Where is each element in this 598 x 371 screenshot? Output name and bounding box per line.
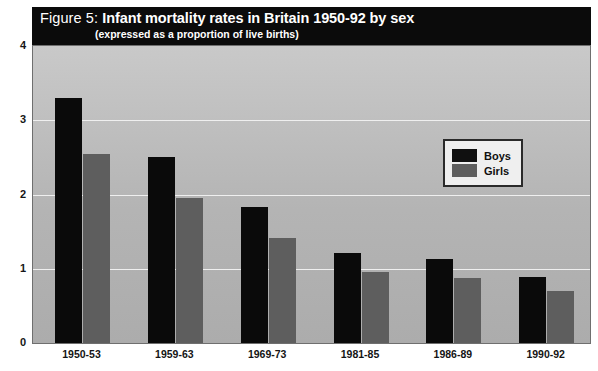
legend-item: Girls (452, 164, 511, 177)
figure-title-prefix: Figure 5: (40, 10, 102, 26)
y-axis-tick-label: 1 (20, 262, 26, 274)
legend-swatch-boys (452, 149, 477, 162)
legend-label-boys: Boys (484, 150, 511, 162)
bars-layer (33, 46, 590, 343)
bar-group (148, 46, 203, 343)
x-axis-tick-label: 1986-89 (434, 348, 473, 360)
bar-boys-1981-85 (334, 253, 361, 343)
bar-girls-1969-73 (269, 238, 296, 343)
bar-group (55, 46, 110, 343)
x-axis: 1950-531959-631969-731981-851986-891990-… (32, 348, 591, 368)
figure-title: Figure 5: Infant mortality rates in Brit… (40, 9, 591, 27)
x-axis-tick-label: 1990-92 (526, 348, 565, 360)
bar-boys-1969-73 (241, 207, 268, 343)
bar-boys-1959-63 (148, 157, 175, 343)
figure-subtitle: (expressed as a proportion of live birth… (40, 27, 591, 41)
bar-girls-1959-63 (176, 198, 203, 343)
figure-title-banner: Figure 5: Infant mortality rates in Brit… (32, 7, 591, 45)
y-axis-tick-label: 0 (20, 336, 26, 348)
bar-boys-1950-53 (55, 98, 82, 343)
bar-boys-1990-92 (519, 277, 546, 343)
bar-group (519, 46, 574, 343)
plot-area: Boys Girls (32, 45, 591, 344)
y-axis-tick-label: 2 (20, 188, 26, 200)
y-axis-tick-label: 3 (20, 113, 26, 125)
figure-title-main: Infant mortality rates in Britain 1950-9… (102, 10, 414, 26)
bar-girls-1990-92 (547, 291, 574, 343)
bar-group (426, 46, 481, 343)
bar-group (334, 46, 389, 343)
bar-girls-1981-85 (362, 272, 389, 343)
x-axis-tick-label: 1950-53 (62, 348, 101, 360)
bar-boys-1986-89 (426, 259, 453, 343)
x-axis-tick-label: 1969-73 (248, 348, 287, 360)
figure-container: Figure 5: Infant mortality rates in Brit… (0, 0, 598, 371)
x-axis-tick-label: 1959-63 (155, 348, 194, 360)
legend-label-girls: Girls (484, 165, 509, 177)
bar-girls-1950-53 (83, 154, 110, 343)
legend-swatch-girls (452, 164, 477, 177)
bar-girls-1986-89 (454, 278, 481, 343)
y-axis: 01234 (0, 0, 32, 371)
bar-group (241, 46, 296, 343)
x-axis-tick-label: 1981-85 (341, 348, 380, 360)
legend-item: Boys (452, 149, 511, 162)
chart-legend: Boys Girls (443, 139, 523, 187)
y-axis-tick-label: 4 (20, 39, 26, 51)
